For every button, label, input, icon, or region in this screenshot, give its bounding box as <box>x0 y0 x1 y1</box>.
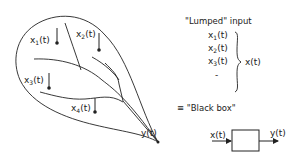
rain-input-2: x2(t) <box>76 29 101 52</box>
input-label-x1: x1(t) <box>30 35 50 46</box>
black-box-caption: ≡ "Black box" <box>177 103 236 113</box>
diagram-canvas: x1(t) x2(t) x3(t) x4(t) y(t) "Lumped" in… <box>0 0 300 163</box>
input-label-x2: x2(t) <box>76 29 96 40</box>
rain-input-4: x4(t) <box>71 98 97 114</box>
black-box <box>232 130 259 151</box>
lumped-result: x(t) <box>245 57 261 67</box>
rain-input-1: x1(t) <box>30 28 59 46</box>
outlet-label: y(t) <box>141 128 157 138</box>
lumped-x3: x3(t) <box>208 56 228 67</box>
lumped-ellipsis: - <box>215 70 218 80</box>
blackbox-input-label: x(t) <box>210 130 226 140</box>
blackbox-output-label: y(t) <box>270 128 286 138</box>
river-network <box>34 23 158 142</box>
rain-input-3: x3(t) <box>24 73 51 90</box>
input-label-x4: x4(t) <box>71 103 91 114</box>
lumped-brace <box>235 32 241 92</box>
lumped-x2: x2(t) <box>208 43 228 54</box>
input-label-x3: x3(t) <box>24 75 44 86</box>
lumped-x1: x1(t) <box>208 30 228 41</box>
lumped-heading: "Lumped" input <box>185 16 252 26</box>
outlet-point <box>157 141 160 144</box>
